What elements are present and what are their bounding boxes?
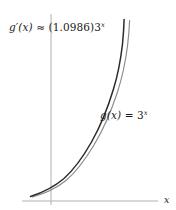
derivative-relation-icon: ≈ bbox=[36, 21, 45, 33]
curve-g-prime-of-x bbox=[31, 20, 125, 197]
derivative-fn: g bbox=[9, 21, 16, 33]
function-fn: g bbox=[100, 109, 107, 121]
label-derivative-equation: g′(x) ≈ (1.0986)3x bbox=[9, 22, 105, 33]
x-axis-label: x bbox=[164, 195, 169, 205]
label-function-equation: g(x) = 3x bbox=[100, 110, 148, 121]
function-arg: (x) bbox=[107, 109, 121, 121]
function-exponent: x bbox=[144, 109, 148, 117]
function-base: 3 bbox=[137, 109, 144, 121]
derivative-coefficient: (1.0986) bbox=[49, 21, 95, 33]
exponential-derivative-figure: g′(x) ≈ (1.0986)3x g(x) = 3x x bbox=[0, 0, 176, 210]
derivative-arg: (x) bbox=[18, 21, 32, 33]
function-relation-icon: = bbox=[125, 109, 134, 121]
derivative-exponent: x bbox=[101, 21, 105, 29]
